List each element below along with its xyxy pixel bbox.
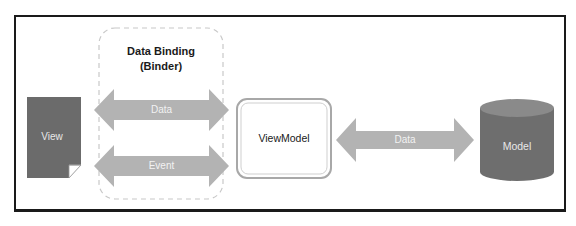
binder-data-label: Data (114, 104, 209, 115)
diagram-canvas (0, 0, 576, 226)
viewmodel-label: ViewModel (237, 132, 331, 144)
view-label: View (27, 131, 77, 142)
binder-title: Data Binding (Binder) (99, 44, 223, 74)
binder-event-label: Event (114, 160, 209, 171)
binder-title-line1: Data Binding (99, 44, 223, 59)
binder-title-line2: (Binder) (99, 59, 223, 74)
model-data-label: Data (356, 134, 454, 145)
model-label: Model (480, 140, 554, 152)
